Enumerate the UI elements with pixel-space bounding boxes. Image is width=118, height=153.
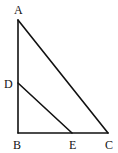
label-c: C bbox=[105, 138, 113, 152]
label-a: A bbox=[14, 3, 23, 17]
label-b: B bbox=[13, 138, 21, 152]
label-e: E bbox=[69, 138, 76, 152]
segment-de bbox=[18, 83, 72, 133]
segment-ac bbox=[18, 20, 108, 133]
geometry-diagram: A B C D E bbox=[0, 0, 118, 153]
label-d: D bbox=[4, 77, 13, 91]
